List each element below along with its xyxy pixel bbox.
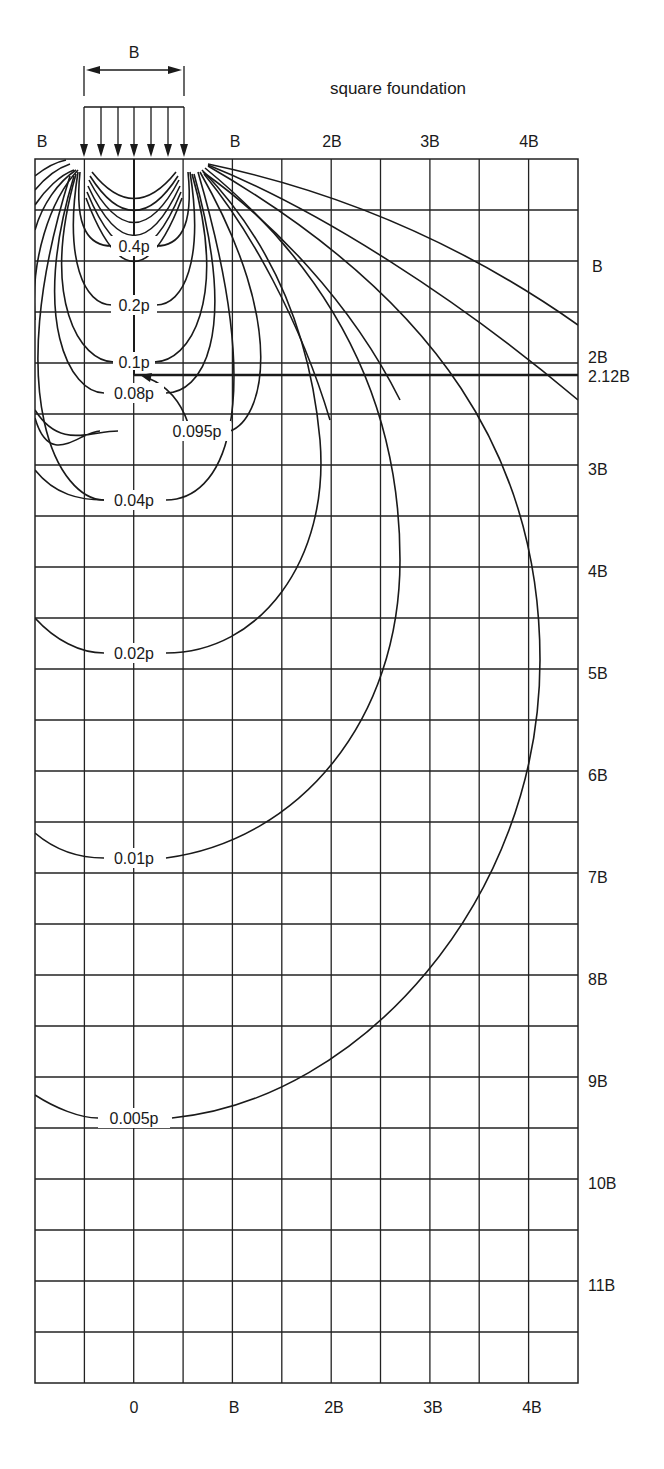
right-axis-label: 7B	[588, 869, 608, 886]
bottom-axis-label: 0	[130, 1399, 139, 1416]
diagram-title: square foundation	[330, 79, 466, 98]
top-axis: B B 2B 3B 4B	[37, 133, 539, 150]
right-axis-label: 10B	[588, 1175, 616, 1192]
right-axis-label: 6B	[588, 767, 608, 784]
arrow-right-icon	[168, 66, 182, 74]
load-arrow-icons	[80, 107, 188, 157]
contour-label-0-02p: 0.02p	[114, 645, 154, 662]
right-axis-label: 4B	[588, 563, 608, 580]
contour-label-0-04p: 0.04p	[114, 492, 154, 509]
bottom-axis-label: 4B	[522, 1399, 542, 1416]
right-axis-label: 2B	[588, 349, 608, 366]
contour-label-0-2p: 0.2p	[118, 297, 149, 314]
footing-width-dimension: B	[84, 44, 184, 96]
arrow-left-icon	[86, 66, 100, 74]
contour-label-0-005p: 0.005p	[110, 1110, 159, 1127]
bottom-axis-label: 3B	[423, 1399, 443, 1416]
top-axis-label: 2B	[322, 133, 342, 150]
right-axis-label: 5B	[588, 665, 608, 682]
contour-label-0-08p: 0.08p	[114, 385, 154, 402]
contour-label-0-095p: 0.095p	[173, 423, 222, 440]
right-axis-label: 2.12B	[588, 368, 630, 385]
grid	[35, 159, 578, 1383]
contour-label-0-1p: 0.1p	[118, 354, 149, 371]
right-axis: B 2B 2.12B 3B 4B 5B 6B 7B 8B 9B 10B 11B	[588, 258, 630, 1294]
stress-bulb-diagram: square foundation B B B 2B 3B 4B	[0, 0, 664, 1469]
top-axis-label: 3B	[420, 133, 440, 150]
bottom-axis-label: 2B	[324, 1399, 344, 1416]
contour-label-0-01p: 0.01p	[114, 850, 154, 867]
bottom-axis-label: B	[229, 1399, 240, 1416]
dimension-label: B	[129, 44, 140, 61]
right-axis-label: 3B	[588, 461, 608, 478]
top-axis-label: B	[230, 133, 241, 150]
right-axis-label: 11B	[588, 1277, 615, 1294]
right-axis-label: B	[592, 258, 603, 275]
contour-label-0-4p: 0.4p	[118, 238, 149, 255]
right-axis-label: 9B	[588, 1073, 608, 1090]
top-axis-left-label: B	[37, 133, 48, 150]
right-axis-label: 8B	[588, 971, 608, 988]
uniform-load	[80, 107, 188, 157]
top-axis-label: 4B	[519, 133, 539, 150]
contour-labels: 0.4p 0.2p 0.1p 0.08p 0.095p 0.04p 0.02p …	[98, 236, 231, 1128]
bottom-axis: 0 B 2B 3B 4B	[130, 1399, 542, 1416]
